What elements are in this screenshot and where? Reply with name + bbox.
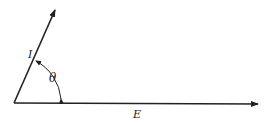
angle-label: θ — [49, 71, 57, 85]
current-vector-arrow — [14, 10, 55, 103]
phasor-diagram: I θ E — [0, 0, 273, 123]
voltage-label: E — [132, 108, 141, 121]
voltage-vector-arrow — [14, 103, 258, 104]
phasor-svg: I θ E — [0, 0, 273, 123]
current-label: I — [27, 48, 33, 61]
